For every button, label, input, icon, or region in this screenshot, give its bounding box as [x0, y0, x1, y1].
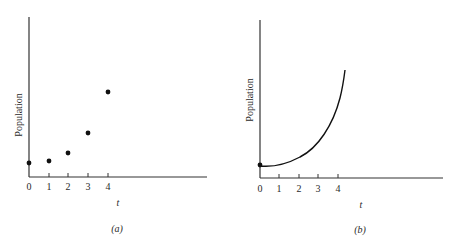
initial-point — [258, 163, 263, 168]
y-axis-label-b: Population — [244, 78, 255, 121]
x-tick-label: 0 — [258, 183, 263, 194]
figure: 0 1 2 3 4 t Population (a) 0 1 2 3 4 t — [0, 0, 455, 243]
x-tick-label: 4 — [106, 181, 111, 192]
caption-b: (b) — [354, 224, 366, 236]
data-point — [27, 161, 32, 166]
x-axis-label-b: t — [360, 199, 363, 210]
x-tick-label: 0 — [27, 181, 32, 192]
data-points-a — [27, 90, 111, 166]
data-point — [86, 131, 91, 136]
x-tick-label: 3 — [316, 183, 321, 194]
x-tick-label: 2 — [66, 181, 71, 192]
x-tick-label: 1 — [277, 183, 282, 194]
y-axis-label-a: Population — [13, 93, 24, 136]
panel-a: 0 1 2 3 4 t Population (a) — [13, 17, 207, 235]
panel-b: 0 1 2 3 4 t Population (b) — [244, 20, 443, 236]
x-tick-label: 4 — [336, 183, 341, 194]
x-tick-label: 3 — [86, 181, 91, 192]
data-point — [106, 90, 111, 95]
x-tick-label: 2 — [297, 183, 302, 194]
data-point — [66, 151, 71, 156]
caption-a: (a) — [111, 223, 123, 235]
x-axis-label-a: t — [117, 197, 120, 208]
growth-curve — [260, 70, 345, 166]
x-tick-label: 1 — [47, 181, 52, 192]
data-point — [47, 159, 52, 164]
